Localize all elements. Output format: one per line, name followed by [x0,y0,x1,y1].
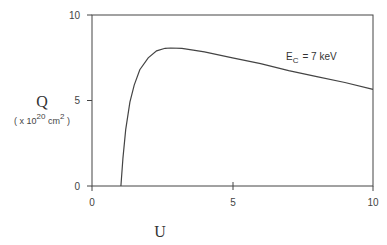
y-tick-label-10: 10 [69,10,81,21]
y-tick-label-0: 0 [74,181,80,192]
y-tick-label-5: 5 [74,95,80,106]
x-tick-label-0: 0 [89,197,95,208]
chart: 10 5 0 0 5 10 U Q ( x 1020 cm2 ) EC= 7 k… [0,0,387,245]
x-tick-label-5: 5 [230,197,236,208]
curve-annotation: EC= 7 keV [286,51,337,65]
x-axis-label: U [154,223,166,240]
data-curve [121,48,373,186]
x-tick-label-10: 10 [367,197,379,208]
y-axis-unit: ( x 1020 cm2 ) [14,112,70,126]
plot-frame [92,15,373,186]
y-axis-label: Q [36,93,48,110]
